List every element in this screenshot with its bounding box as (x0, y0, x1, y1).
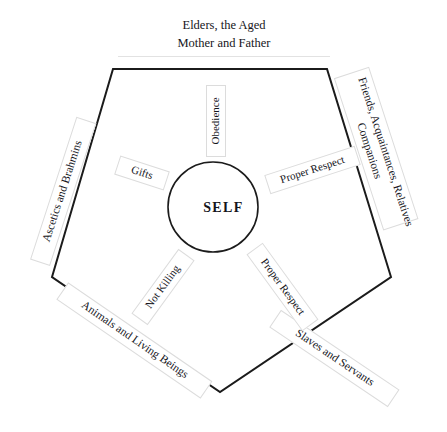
inner-label-obedience: Obedience (206, 85, 226, 157)
inner-label-obedience-text: Obedience (209, 92, 222, 150)
outer-label-elders: Elders, the Aged Mother and Father (118, 17, 330, 57)
pentagon-diagram: SELF Elders, the Aged Mother and Father … (0, 0, 447, 432)
outer-label-elders-line2: Mother and Father (118, 35, 330, 53)
outer-label-elders-line1: Elders, the Aged (118, 17, 330, 35)
